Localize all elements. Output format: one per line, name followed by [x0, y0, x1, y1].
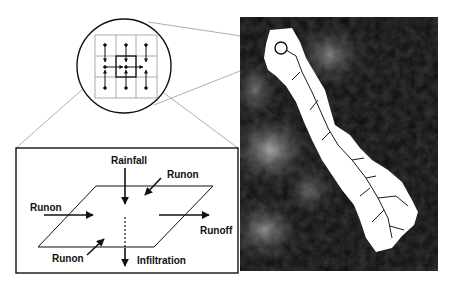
- cell-water-balance-box: Rainfall Runon Runon Runon Runoff Infilt…: [16, 148, 238, 273]
- map-zoom-circle: [275, 42, 287, 54]
- label-infiltration: Infiltration: [137, 255, 186, 266]
- label-runon-bottom-left: Runon: [52, 253, 84, 264]
- label-rainfall: Rainfall: [111, 155, 147, 166]
- label-runon-top-right: Runon: [167, 169, 199, 180]
- elevation-map: [225, 17, 438, 271]
- hydrology-diagram: Rainfall Runon Runon Runon Runoff Infilt…: [0, 0, 450, 286]
- label-runoff: Runoff: [200, 225, 233, 236]
- zoom-inset: [77, 19, 171, 113]
- label-runon-left: Runon: [30, 202, 62, 213]
